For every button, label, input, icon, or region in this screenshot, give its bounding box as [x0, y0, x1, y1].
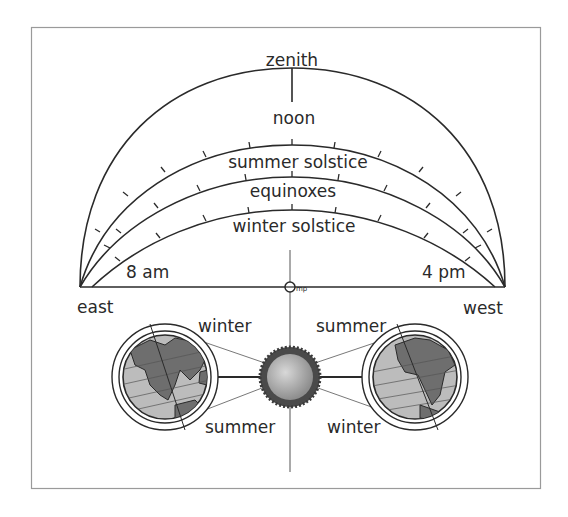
summer-solstice-label: summer solstice: [228, 152, 368, 172]
noon-label: noon: [273, 108, 315, 128]
right-winter-label: winter: [327, 417, 381, 437]
sun-path-diagram: mp zenith noon summer solstice equinoxes…: [0, 0, 568, 517]
time-4pm-label: 4 pm: [422, 262, 466, 282]
equinoxes-label: equinoxes: [250, 181, 336, 201]
observer-label: mp: [296, 285, 308, 293]
left-winter-label: winter: [198, 316, 252, 336]
sun-icon: [260, 347, 320, 407]
frame: [32, 28, 541, 489]
right-earth-icon: [362, 324, 468, 430]
time-8am-label: 8 am: [126, 262, 169, 282]
winter-solstice-label: winter solstice: [233, 216, 356, 236]
west-label: west: [463, 298, 503, 318]
right-summer-label: summer: [316, 316, 386, 336]
left-summer-label: summer: [205, 417, 275, 437]
zenith-label: zenith: [266, 50, 318, 70]
east-label: east: [77, 297, 114, 317]
left-earth-icon: [112, 324, 218, 430]
